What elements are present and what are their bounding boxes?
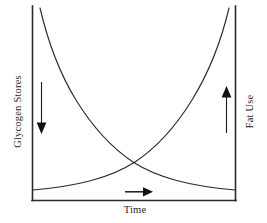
y-axis-label-right: Fat Use bbox=[245, 0, 259, 223]
up-arrow-icon bbox=[222, 86, 232, 133]
y-axis-label-left: Glycogen Stores bbox=[13, 0, 27, 223]
right-arrow-icon bbox=[125, 187, 153, 196]
fat-use-curve bbox=[33, 8, 229, 190]
glycogen-fat-use-figure: Glycogen Stores Fat Use Time bbox=[0, 0, 267, 223]
glycogen-stores-curve bbox=[40, 8, 235, 190]
down-arrow-icon bbox=[37, 82, 47, 134]
x-axis-label: Time bbox=[85, 205, 185, 216]
plot-area bbox=[0, 0, 267, 223]
